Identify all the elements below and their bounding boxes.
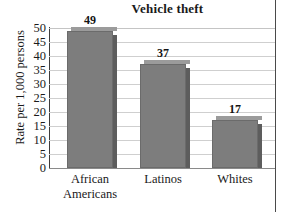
x-axis-line [49, 168, 275, 169]
y-tick-label: 5 [0, 148, 46, 161]
bar-shadow [258, 124, 262, 168]
bar-shadow [186, 68, 190, 168]
y-tick-label: 40 [0, 50, 46, 63]
bar-shadow [113, 35, 117, 168]
category-label-line: Americans [42, 187, 138, 202]
bar-body [212, 120, 258, 168]
y-tick-label: 35 [0, 64, 46, 77]
y-tick-label: 45 [0, 36, 46, 49]
bar-body [140, 64, 186, 168]
bar-value-label: 17 [205, 102, 265, 117]
y-tick-label: 20 [0, 106, 46, 119]
y-tick-label: 30 [0, 78, 46, 91]
bar [67, 31, 113, 168]
bar [140, 64, 186, 168]
chart-page: Vehicle theft Rate per 1,000 persons 504… [0, 0, 287, 212]
y-axis-tick-labels: 50454035302520151050 [0, 0, 46, 212]
y-tick-label: 25 [0, 92, 46, 105]
y-tick-label: 50 [0, 22, 46, 35]
category-label-line: Whites [187, 172, 283, 187]
bar [212, 120, 258, 168]
bar-value-label: 37 [133, 46, 193, 61]
y-tick-label: 0 [0, 162, 46, 175]
bar-body [67, 31, 113, 168]
category-label: Whites [187, 172, 283, 187]
y-tick-label: 10 [0, 134, 46, 147]
y-tick-label: 15 [0, 120, 46, 133]
bar-value-label: 49 [60, 13, 120, 28]
